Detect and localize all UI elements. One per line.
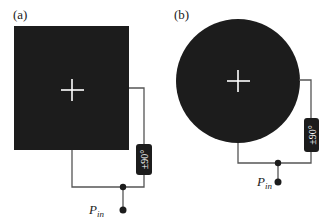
phase-shifter-label: ±90° <box>307 125 318 145</box>
panel-b: (b) ±90° Pin <box>174 7 319 191</box>
input-port-label: Pin <box>256 174 272 191</box>
panel-a: (a) ±90° Pin <box>13 7 152 219</box>
panel-a-label: (a) <box>13 7 27 22</box>
input-port-dot <box>275 179 282 186</box>
phase-shifter-box: ±90° <box>136 144 152 175</box>
input-port-label: Pin <box>88 202 104 219</box>
figure-canvas: (a) ±90° Pin (b) <box>0 0 334 223</box>
input-port-dot <box>120 207 127 214</box>
phase-shifter-label: ±90° <box>139 150 150 170</box>
junction-dot <box>275 160 281 166</box>
panel-b-label: (b) <box>174 7 189 22</box>
junction-dot <box>120 184 126 190</box>
phase-shifter-box: ±90° <box>304 118 319 152</box>
